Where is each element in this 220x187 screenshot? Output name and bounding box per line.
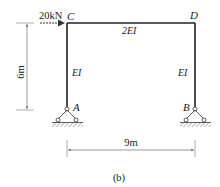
node-b-label: B [183, 101, 190, 113]
right-column-stiffness-label: EI [177, 67, 188, 78]
node-d-label: D [189, 9, 198, 21]
load-label: 20kN [39, 10, 63, 21]
beam-stiffness-label: 2EI [122, 25, 137, 36]
left-column-stiffness-label: EI [71, 67, 82, 78]
height-dimension-label: 6m [15, 65, 26, 78]
figure-caption: (b) [113, 172, 126, 184]
frame-diagram: 20kN C D A B 2EI EI EI 6m 9m (b) [0, 0, 220, 187]
node-c-label: C [67, 10, 75, 22]
node-a-label: A [72, 101, 80, 113]
span-dimension-label: 9m [124, 137, 137, 148]
